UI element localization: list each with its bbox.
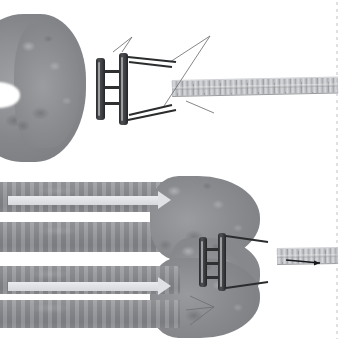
bottom-overlay-lines [0,0,353,341]
figure-canvas [0,0,353,341]
